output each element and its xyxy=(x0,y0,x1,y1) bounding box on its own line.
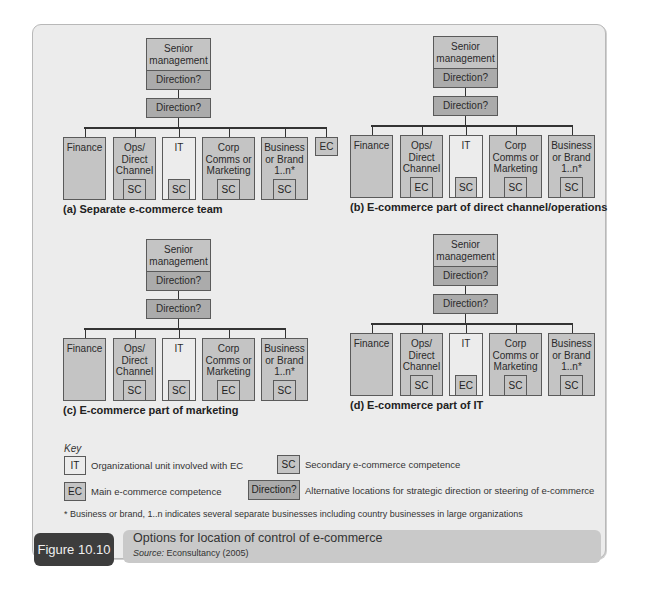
unit-connector xyxy=(422,323,423,333)
diagram-caption: (d) E-commerce part of IT xyxy=(350,399,483,411)
secondary-competence-badge: SC xyxy=(455,177,477,198)
key-direction-text: Alternative locations for strategic dire… xyxy=(305,485,594,496)
source-text: Econsultancy (2005) xyxy=(167,548,249,558)
unit-label: Ops/ Direct Channel xyxy=(114,343,155,378)
unit-label: IT xyxy=(163,142,195,154)
unit-label: Finance xyxy=(64,343,105,355)
unit-label: Corp Comms or Marketing xyxy=(490,140,541,175)
unit-connector xyxy=(466,125,467,135)
figure-number: Figure 10.10 xyxy=(34,533,114,566)
senior-management-box: Senior management xyxy=(146,239,211,272)
unit-connector xyxy=(229,328,230,338)
key-sc-symbol: SC xyxy=(277,455,300,474)
secondary-competence-badge: SC xyxy=(504,177,527,198)
unit-finance: Finance xyxy=(63,338,106,401)
unit-label: Finance xyxy=(64,142,105,154)
unit-finance: Finance xyxy=(63,137,106,200)
secondary-competence-badge: SC xyxy=(123,179,146,200)
senior-direction-box: Direction? xyxy=(433,68,498,88)
horizontal-connector xyxy=(84,328,286,330)
unit-connector xyxy=(516,125,517,135)
unit-label: Ops/ Direct Channel xyxy=(114,142,155,177)
unit-label: Corp Comms or Marketing xyxy=(203,142,254,177)
main-competence-badge: EC xyxy=(455,375,477,396)
figure-source: Source: Econsultancy (2005) xyxy=(133,548,249,558)
main-competence-badge: EC xyxy=(217,380,240,401)
secondary-competence-badge: SC xyxy=(504,375,527,396)
unit-label: Ops/ Direct Channel xyxy=(401,338,442,373)
unit-label: Business or Brand 1..n* xyxy=(549,338,594,373)
direction-box: Direction? xyxy=(146,98,211,118)
source-label: Source: xyxy=(133,548,164,558)
unit-connector xyxy=(135,127,136,137)
unit-connector xyxy=(572,125,573,135)
secondary-competence-badge: SC xyxy=(217,179,240,200)
senior-direction-box: Direction? xyxy=(146,70,211,90)
unit-connector xyxy=(422,125,423,135)
key-it-text: Organizational unit involved with EC xyxy=(91,460,243,471)
unit-connector xyxy=(285,328,286,338)
unit-connector xyxy=(285,127,286,137)
senior-direction-box: Direction? xyxy=(433,266,498,286)
secondary-competence-badge: SC xyxy=(168,380,190,401)
unit-connector xyxy=(572,323,573,333)
unit-label: Corp Comms or Marketing xyxy=(490,338,541,373)
direction-box: Direction? xyxy=(433,294,498,314)
unit-label: Corp Comms or Marketing xyxy=(203,343,254,378)
org-chart-b: Senior managementDirection?Direction?Fin… xyxy=(287,0,657,198)
senior-management-box: Senior management xyxy=(146,38,211,71)
secondary-competence-badge: SC xyxy=(168,179,190,200)
unit-label: Ops/ Direct Channel xyxy=(401,140,442,175)
unit-label: IT xyxy=(450,140,482,152)
unit-connector xyxy=(179,328,180,338)
senior-management-box: Senior management xyxy=(433,234,498,267)
unit-connector xyxy=(135,328,136,338)
unit-finance: Finance xyxy=(350,135,393,198)
unit-connector xyxy=(85,127,86,137)
unit-label: Finance xyxy=(351,338,392,350)
unit-connector xyxy=(466,323,467,333)
key-it-symbol: IT xyxy=(64,456,86,475)
unit-label: IT xyxy=(450,338,482,350)
key-sc-text: Secondary e-commerce competence xyxy=(305,459,460,470)
unit-label: IT xyxy=(163,343,195,355)
key-footnote: * Business or brand, 1..n indicates seve… xyxy=(64,509,523,519)
senior-direction-box: Direction? xyxy=(146,271,211,291)
secondary-competence-badge: SC xyxy=(123,380,146,401)
key-ec-symbol: EC xyxy=(64,482,86,501)
key-direction-symbol: Direction? xyxy=(248,480,300,500)
main-competence-badge: EC xyxy=(410,177,433,198)
secondary-competence-badge: SC xyxy=(560,177,583,198)
direction-box: Direction? xyxy=(146,299,211,319)
figure-title: Options for location of control of e-com… xyxy=(133,531,382,545)
horizontal-connector xyxy=(371,125,573,127)
unit-label: Business or Brand 1..n* xyxy=(549,140,594,175)
unit-connector xyxy=(85,328,86,338)
key-title: Key xyxy=(64,443,81,454)
key-ec-text: Main e-commerce competence xyxy=(91,486,221,497)
unit-connector xyxy=(179,127,180,137)
unit-finance: Finance xyxy=(350,333,393,396)
diagram-caption: (c) E-commerce part of marketing xyxy=(63,404,238,416)
direction-box: Direction? xyxy=(433,96,498,116)
unit-label: Finance xyxy=(351,140,392,152)
org-chart-d: Senior managementDirection?Direction?Fin… xyxy=(287,196,657,396)
secondary-competence-badge: SC xyxy=(410,375,433,396)
secondary-competence-badge: SC xyxy=(560,375,583,396)
unit-connector xyxy=(372,125,373,135)
unit-connector xyxy=(372,323,373,333)
unit-connector xyxy=(229,127,230,137)
unit-connector xyxy=(516,323,517,333)
horizontal-connector xyxy=(371,323,573,325)
senior-management-box: Senior management xyxy=(433,36,498,69)
